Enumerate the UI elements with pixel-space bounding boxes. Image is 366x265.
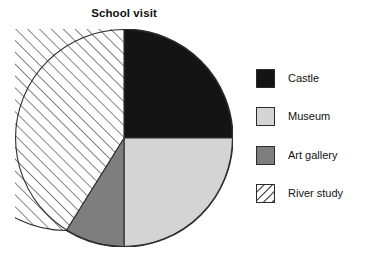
legend-item-river-study[interactable]: River study [256,184,364,204]
legend-label-river-study: River study [288,187,343,200]
pie-slice-castle[interactable] [124,29,233,138]
chart-title: School visit [0,6,248,20]
pie-chart-svg [15,29,233,247]
pie-chart-figure: School visit [0,0,366,265]
legend-label-castle: Castle [288,72,319,85]
pie-slice-museum[interactable] [124,138,233,247]
legend-item-castle[interactable]: Castle [256,68,364,88]
legend-swatch-art-gallery [256,146,275,165]
legend-item-museum[interactable]: Museum [256,107,364,127]
legend-swatch-museum [256,107,275,126]
chart-legend: Castle Museum Art gallery [256,68,364,204]
legend-swatch-castle [256,69,275,88]
legend-label-museum: Museum [288,110,330,123]
pie-chart-plot-area [15,29,233,247]
legend-item-art-gallery[interactable]: Art gallery [256,145,364,165]
legend-swatch-river-study [256,184,275,203]
legend-label-art-gallery: Art gallery [288,149,338,162]
